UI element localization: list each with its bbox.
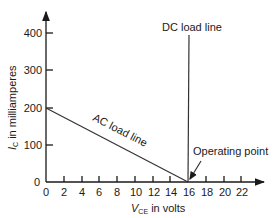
svg-text:12: 12 bbox=[148, 186, 160, 198]
x-ticks bbox=[64, 176, 241, 182]
ac-load-line-label: AC load line bbox=[91, 111, 149, 149]
svg-text:400: 400 bbox=[24, 27, 42, 39]
y-ticks bbox=[46, 33, 53, 145]
svg-text:300: 300 bbox=[24, 64, 42, 76]
svg-text:16: 16 bbox=[183, 186, 195, 198]
svg-text:6: 6 bbox=[96, 186, 102, 198]
y-tick-labels: 0 100 200 300 400 bbox=[24, 27, 42, 188]
svg-text:10: 10 bbox=[130, 186, 142, 198]
svg-text:200: 200 bbox=[24, 102, 42, 114]
svg-text:IC in milliamperes: IC in milliamperes bbox=[6, 65, 19, 150]
svg-text:20: 20 bbox=[219, 186, 231, 198]
load-line-chart: 0 100 200 300 400 0 2 4 6 8 10 12 14 16 … bbox=[0, 0, 273, 218]
x-axis-label: VCE in volts bbox=[131, 202, 186, 215]
ac-load-line bbox=[46, 108, 188, 182]
svg-text:0: 0 bbox=[34, 176, 40, 188]
svg-text:14: 14 bbox=[165, 186, 177, 198]
dc-load-line bbox=[188, 35, 189, 182]
svg-text:0: 0 bbox=[43, 186, 49, 198]
svg-text:100: 100 bbox=[24, 139, 42, 151]
svg-text:VCE in volts: VCE in volts bbox=[131, 202, 186, 215]
svg-text:18: 18 bbox=[201, 186, 213, 198]
dc-load-line-label: DC load line bbox=[162, 21, 222, 33]
svg-text:22: 22 bbox=[236, 186, 248, 198]
x-tick-labels: 0 2 4 6 8 10 12 14 16 18 20 22 bbox=[43, 186, 248, 198]
svg-text:8: 8 bbox=[114, 186, 120, 198]
operating-point-label: Operating point bbox=[193, 145, 268, 157]
svg-text:2: 2 bbox=[61, 186, 67, 198]
operating-point-arrow bbox=[190, 161, 201, 179]
y-axis-label: IC in milliamperes bbox=[6, 65, 19, 150]
svg-text:4: 4 bbox=[79, 186, 85, 198]
